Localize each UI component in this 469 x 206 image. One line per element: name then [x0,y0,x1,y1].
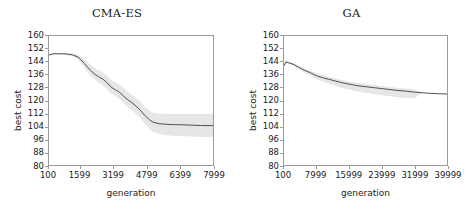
y-tick-label: 104 [251,121,279,131]
y-tick-label: 88 [16,147,44,157]
plot-lines-cma-es [49,36,213,165]
y-tick-label: 136 [16,69,44,79]
x-tick-mark [180,166,181,169]
x-tick-label: 39999 [434,170,461,180]
y-tick-mark [45,114,48,115]
x-tick-mark [48,166,49,169]
y-tick-label: 160 [251,30,279,40]
x-tick-mark [214,166,215,169]
y-tick-mark [280,153,283,154]
y-tick-mark [45,127,48,128]
y-tick-mark [280,87,283,88]
y-tick-label: 104 [16,121,44,131]
x-tick-label: 6399 [170,170,192,180]
y-tick-label: 80 [16,161,44,171]
y-tick-label: 136 [251,69,279,79]
y-tick-mark [45,101,48,102]
y-tick-mark [45,87,48,88]
y-tick-label: 88 [251,147,279,157]
x-tick-mark [80,166,81,169]
y-tick-label: 144 [16,56,44,66]
x-tick-mark [349,166,350,169]
y-tick-label: 80 [251,161,279,171]
x-tick-label: 1599 [69,170,91,180]
y-tick-mark [280,48,283,49]
plot-area-cma-es [48,35,214,166]
y-tick-mark [280,127,283,128]
y-tick-label: 96 [16,134,44,144]
y-tick-label: 144 [251,56,279,66]
y-tick-mark [45,48,48,49]
plot-area-ga [283,35,448,166]
x-tick-label: 100 [40,170,56,180]
x-tick-label: 7999 [305,170,327,180]
x-tick-label: 31999 [401,170,428,180]
y-tick-label: 152 [16,43,44,53]
x-tick-label: 3199 [102,170,124,180]
x-tick-mark [147,166,148,169]
y-tick-mark [45,74,48,75]
y-tick-label: 152 [251,43,279,53]
y-tick-label: 128 [16,82,44,92]
x-tick-label: 7999 [203,170,225,180]
y-tick-label: 160 [16,30,44,40]
y-tick-label: 112 [16,108,44,118]
x-tick-label: 4799 [136,170,158,180]
y-tick-mark [45,140,48,141]
y-tick-label: 96 [251,134,279,144]
x-tick-label: 100 [275,170,291,180]
x-tick-mark [113,166,114,169]
panel-title-cma-es: CMA-ES [0,6,234,20]
x-tick-label: 15999 [335,170,362,180]
x-tick-label: 23999 [368,170,395,180]
y-tick-mark [280,74,283,75]
y-tick-label: 112 [251,108,279,118]
x-tick-mark [382,166,383,169]
figure-canvas: CMA-ES best cost generation GA best cost… [0,0,469,206]
y-tick-mark [280,140,283,141]
y-tick-mark [280,61,283,62]
y-tick-label: 120 [16,95,44,105]
y-tick-label: 128 [251,82,279,92]
panel-title-ga: GA [234,6,469,20]
x-tick-mark [283,166,284,169]
y-tick-mark [280,114,283,115]
y-tick-mark [280,35,283,36]
x-tick-mark [415,166,416,169]
y-tick-mark [45,61,48,62]
x-tick-mark [448,166,449,169]
y-tick-mark [280,101,283,102]
plot-lines-ga [284,36,447,165]
y-tick-label: 120 [251,95,279,105]
y-tick-mark [45,153,48,154]
x-tick-mark [316,166,317,169]
x-axis-label-left: generation [48,188,214,198]
x-axis-label-right: generation [283,188,448,198]
y-tick-mark [45,35,48,36]
